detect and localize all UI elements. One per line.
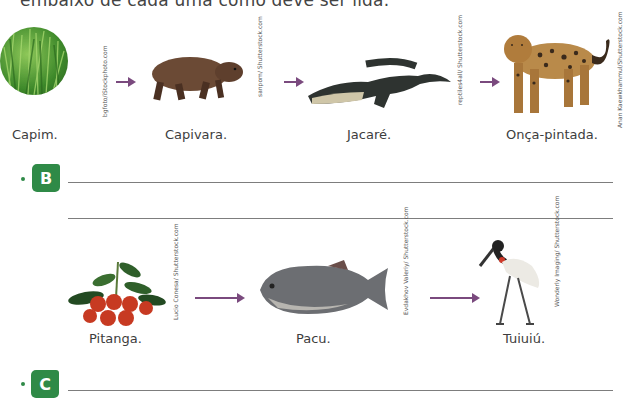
alligator-image — [306, 52, 456, 116]
instruction-text: embaixo de cada uma como deve ser lida. — [20, 0, 389, 10]
question-badge-c: C — [31, 370, 59, 398]
question-badge-b: B — [32, 164, 60, 192]
caption-capivara: Capivara. — [165, 127, 227, 142]
arrow-icon — [116, 81, 134, 83]
bullet-icon — [21, 177, 25, 181]
arrow-icon — [480, 81, 498, 83]
arrow-icon — [195, 297, 243, 299]
caption-pitanga: Pitanga. — [89, 331, 142, 346]
pacu-fish-image — [258, 258, 398, 324]
pitanga-fruit-image — [68, 258, 168, 332]
credit-pitanga: Lucio Conesa/ Shutterstock.com — [172, 265, 179, 320]
caption-jacare: Jacaré. — [347, 127, 391, 142]
credit-jacare: reptiles4all/ Shutterstock.com — [456, 50, 463, 105]
caption-onca-pintada: Onça-pintada. — [506, 127, 598, 142]
credit-capivara: sanpom/ Shutterstock.com — [256, 52, 263, 97]
arrow-icon — [284, 81, 302, 83]
answer-line-c-1[interactable] — [68, 390, 613, 391]
caption-pacu: Pacu. — [296, 331, 331, 346]
capybara-image — [145, 50, 245, 106]
credit-onca-pintada: Anan Kaewkhammul/Shutterstock.com — [616, 12, 623, 128]
caption-capim: Capim. — [12, 127, 58, 142]
jaguar-image — [500, 25, 615, 124]
credit-capim: bgfoto/iStockphoto.com — [101, 37, 108, 117]
credit-pacu: Evdakhov Valeriy/ Shutterstock.com — [402, 250, 409, 315]
credit-tuiuiu: Wonderly Imaging/ Shutterstock.com — [553, 252, 560, 307]
jabiru-stork-image — [476, 236, 546, 332]
arrow-icon — [430, 297, 478, 299]
grass-image — [0, 27, 68, 95]
answer-line-b-2[interactable] — [68, 218, 613, 219]
caption-tuiuiu: Tuiuiú. — [503, 331, 545, 346]
answer-line-b-1[interactable] — [68, 182, 613, 183]
bullet-icon — [21, 382, 25, 386]
